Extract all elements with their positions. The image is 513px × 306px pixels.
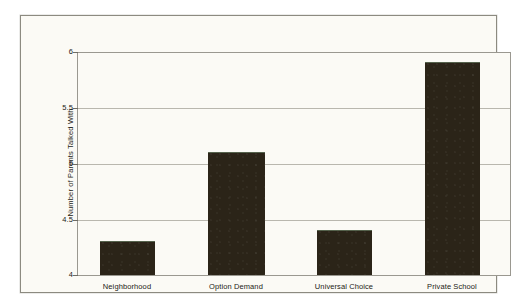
bar-top-highlight bbox=[425, 62, 480, 63]
y-tick-label-6: 6 bbox=[47, 48, 73, 56]
x-tick-label-private-school: Private School bbox=[402, 282, 502, 291]
y-tick-label-4: 4 bbox=[47, 271, 73, 279]
y-tick-label-5-5: 5.5 bbox=[47, 104, 73, 112]
figure-canvas: Number of Parents Talked With 6 5.5 5 4.… bbox=[0, 0, 513, 306]
x-axis-tick-labels: Neighborhood Option Demand Universal Cho… bbox=[77, 282, 511, 296]
chart-outer-frame: Number of Parents Talked With 6 5.5 5 4.… bbox=[20, 15, 497, 293]
bar-top-highlight bbox=[317, 230, 372, 231]
y-tick-mark-5 bbox=[73, 164, 78, 165]
y-tick-label-5: 5 bbox=[47, 160, 73, 168]
y-tick-mark-5-5 bbox=[73, 108, 78, 109]
plot-area bbox=[77, 52, 511, 276]
x-tick-label-universal-choice: Universal Choice bbox=[294, 282, 394, 291]
bar-private-school[interactable] bbox=[425, 62, 480, 275]
y-axis-tick-labels: 6 5.5 5 4.5 4 bbox=[43, 52, 73, 276]
y-tick-mark-6 bbox=[73, 52, 78, 53]
bar-neighborhood[interactable] bbox=[100, 241, 155, 275]
y-tick-mark-4 bbox=[73, 275, 78, 276]
bar-top-highlight bbox=[208, 152, 265, 153]
x-tick-label-option-demand: Option Demand bbox=[186, 282, 286, 291]
bar-universal-choice[interactable] bbox=[317, 230, 372, 275]
y-tick-mark-4-5 bbox=[73, 220, 78, 221]
bar-option-demand[interactable] bbox=[208, 152, 265, 275]
y-tick-label-4-5: 4.5 bbox=[47, 216, 73, 224]
x-tick-label-neighborhood: Neighborhood bbox=[77, 282, 177, 291]
bar-top-highlight bbox=[100, 241, 155, 242]
